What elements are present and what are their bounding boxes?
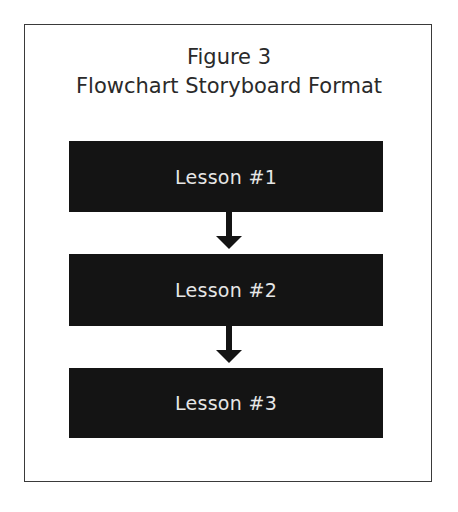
figure-label: Figure 3 [0, 43, 458, 71]
flowchart-node-lesson-3: Lesson #3 [69, 368, 383, 438]
node-label: Lesson #3 [175, 392, 277, 414]
figure-title: Flowchart Storyboard Format [0, 72, 458, 100]
node-label: Lesson #1 [175, 166, 277, 188]
arrow-down-icon [214, 326, 244, 368]
flowchart-node-lesson-2: Lesson #2 [69, 254, 383, 326]
node-label: Lesson #2 [175, 279, 277, 301]
arrow-down-icon [214, 212, 244, 254]
flowchart-node-lesson-1: Lesson #1 [69, 141, 383, 212]
